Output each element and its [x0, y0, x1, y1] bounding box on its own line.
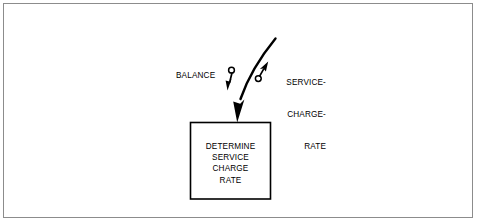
service-charge-rate-arrow-tail-circle: [255, 76, 261, 82]
service-charge-rate-label-line-3: RATE: [266, 142, 326, 153]
diagram-canvas: [0, 0, 479, 222]
process-box-line-2: SERVICE: [190, 152, 271, 163]
balance-arrow: [226, 67, 235, 90]
process-box-text: DETERMINE SERVICE CHARGE RATE: [190, 141, 271, 186]
process-box-line-1: DETERMINE: [190, 141, 271, 152]
service-charge-rate-label-line-1: SERVICE-: [266, 78, 326, 89]
balance-label: BALANCE: [176, 71, 215, 82]
balance-arrow-tail-circle: [229, 67, 235, 73]
service-charge-rate-label: SERVICE- CHARGE- RATE: [266, 57, 326, 174]
service-charge-rate-label-line-2: CHARGE-: [266, 110, 326, 121]
process-box-line-4: RATE: [190, 175, 271, 186]
diagram-screenshot: BALANCE SERVICE- CHARGE- RATE DETERMINE …: [0, 0, 479, 222]
process-box-line-3: CHARGE: [190, 163, 271, 174]
